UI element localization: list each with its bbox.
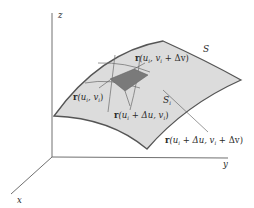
label-r-ui-vi: r(ui, vi) — [73, 93, 103, 104]
label-r-ui-du-vi: r(ui + Δu, vi) — [114, 111, 169, 122]
patch-label: Si — [163, 96, 171, 107]
y-axis-label: y — [223, 160, 228, 169]
x-axis — [11, 157, 52, 194]
x-axis-label: x — [17, 196, 22, 205]
label-r-ui-du-vi-dv: r(ui + Δu, vi + Δv) — [165, 136, 243, 147]
diagram-canvas — [0, 0, 254, 208]
surface-label: S — [203, 45, 209, 54]
label-r-ui-vi-dv: r(ui, vi + Δv) — [135, 54, 189, 65]
y-axis — [52, 157, 228, 158]
z-axis-label: z — [58, 11, 62, 20]
